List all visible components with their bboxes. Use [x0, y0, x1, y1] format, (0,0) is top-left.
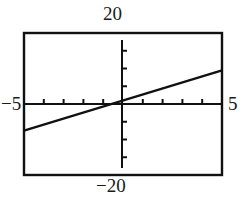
axis-label-xmin: −5 — [1, 94, 21, 113]
graph-figure: 20 −20 −5 5 — [0, 0, 242, 201]
axis-label-ymin: −20 — [96, 176, 126, 195]
axis-label-ymax: 20 — [103, 4, 122, 23]
axis-label-xmax: 5 — [228, 94, 238, 113]
plot-canvas — [0, 0, 242, 201]
